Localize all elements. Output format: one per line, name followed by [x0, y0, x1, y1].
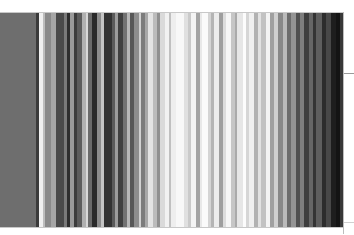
stripe-strip [0, 12, 344, 228]
right-tick-upper [344, 73, 354, 74]
stripe [176, 13, 184, 227]
right-border-rule [343, 12, 344, 234]
stripe [0, 13, 36, 227]
stripe [56, 13, 64, 227]
stripe [104, 13, 112, 227]
right-tick-lower [344, 222, 354, 223]
